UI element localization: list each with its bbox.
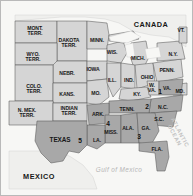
region-mont-terr [15, 21, 57, 43]
map-marker-2: 2 [145, 103, 149, 110]
region-colo-terr [15, 65, 53, 101]
map-marker-4: 4 [106, 120, 110, 127]
region-iowa [87, 61, 107, 81]
map-marker-1: 1 [158, 88, 162, 95]
map-marker-5: 5 [78, 137, 82, 144]
region-ne-states [179, 27, 187, 43]
map-frame: MONT. TERR. DAKOTA TERR. MINN. WYO. TERR… [0, 0, 193, 196]
region-dakota-terr [57, 21, 87, 61]
region-ind [121, 63, 135, 89]
map-marker-3: 3 [137, 133, 141, 140]
region-indian-terr [53, 103, 87, 121]
region-va [159, 79, 183, 95]
region-minn [87, 21, 109, 49]
water-label-gulf-of-mexico: Gulf of Mexico [96, 166, 142, 173]
region-ny [157, 41, 185, 61]
region-nebr [53, 61, 87, 83]
region-wyo-terr [15, 43, 57, 65]
region-kans [53, 83, 87, 103]
